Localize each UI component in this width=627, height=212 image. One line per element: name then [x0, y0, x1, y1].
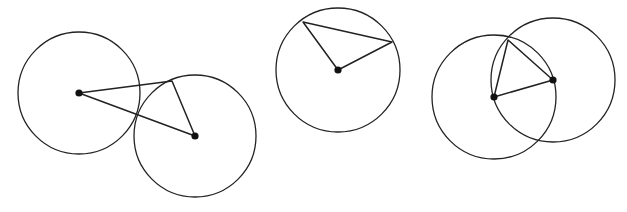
- figure-two-circles-overlapping: [432, 18, 615, 159]
- center-point: [191, 132, 198, 139]
- geometry-diagram: [0, 0, 627, 212]
- center-point: [334, 66, 341, 73]
- triangle: [494, 40, 553, 97]
- center-point: [75, 89, 82, 96]
- figure-single-circle: [276, 8, 400, 132]
- center-point: [490, 93, 497, 100]
- triangle: [303, 22, 392, 70]
- figure-two-circles-apart: [18, 32, 256, 197]
- center-point: [549, 76, 556, 83]
- triangle: [79, 81, 195, 136]
